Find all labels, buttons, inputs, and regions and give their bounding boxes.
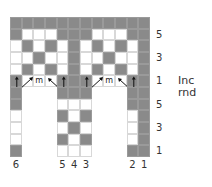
chart-cell	[57, 99, 69, 111]
row-label: 1	[156, 145, 162, 157]
chart-cell	[127, 134, 139, 146]
chart-cell	[10, 99, 22, 111]
chart-cell	[22, 29, 34, 41]
chart-cell	[57, 40, 69, 52]
chart-cell	[45, 29, 57, 41]
chart-cell	[80, 87, 92, 99]
row-label: 1	[156, 75, 162, 87]
chart-cell	[33, 29, 45, 41]
chart-cell	[80, 52, 92, 64]
chart-cell	[127, 52, 139, 64]
chart-cell	[57, 64, 69, 76]
chart-cell	[115, 75, 127, 87]
chart-cell	[138, 110, 150, 122]
chart-cell	[115, 52, 127, 64]
chart-cell	[115, 17, 127, 29]
chart-cell	[68, 99, 80, 111]
chart-cell	[45, 75, 57, 87]
chart-cell	[22, 75, 34, 87]
chart-cell	[138, 145, 150, 157]
chart-cell	[57, 110, 69, 122]
chart-cell	[92, 17, 104, 29]
chart-cell	[115, 64, 127, 76]
chart-cell	[45, 17, 57, 29]
row-label: 5	[156, 29, 162, 41]
chart-cell	[127, 29, 139, 41]
chart-cell	[10, 17, 22, 29]
chart-cell	[57, 122, 69, 134]
chart-cell	[68, 134, 80, 146]
stitch-label: 4	[68, 159, 80, 170]
chart-cell	[138, 52, 150, 64]
chart-cell	[45, 64, 57, 76]
chart-cell	[127, 40, 139, 52]
chart-cell	[80, 40, 92, 52]
chart-cell: m	[103, 75, 115, 87]
chart-cell	[10, 52, 22, 64]
chart-cell	[10, 29, 22, 41]
chart-cell	[127, 64, 139, 76]
row-label: 3	[156, 122, 162, 134]
chart-cell: m	[33, 75, 45, 87]
row-label: 3	[156, 52, 162, 64]
chart-cell	[33, 64, 45, 76]
chart-cell	[127, 87, 139, 99]
chart-cell	[22, 52, 34, 64]
chart-cell	[127, 75, 139, 87]
chart-cell	[68, 145, 80, 157]
chart-cell	[103, 64, 115, 76]
chart-cell	[10, 122, 22, 134]
chart-cell	[10, 145, 22, 157]
chart-cell	[80, 122, 92, 134]
chart-cell	[57, 75, 69, 87]
chart-cell	[138, 122, 150, 134]
chart-cell	[103, 29, 115, 41]
chart-cell	[80, 145, 92, 157]
chart-cell	[33, 40, 45, 52]
chart-cell	[33, 52, 45, 64]
chart-cell	[80, 29, 92, 41]
chart-cell	[80, 110, 92, 122]
chart-cell	[138, 134, 150, 146]
chart-cell	[138, 64, 150, 76]
chart-cell	[127, 122, 139, 134]
chart-cell	[92, 29, 104, 41]
chart-cell	[10, 87, 22, 99]
chart-cell	[92, 40, 104, 52]
chart-cell	[68, 87, 80, 99]
chart-cell	[33, 17, 45, 29]
chart-cell	[45, 40, 57, 52]
stitch-label: 5	[57, 159, 69, 170]
chart-cell	[92, 75, 104, 87]
chart-cell	[22, 64, 34, 76]
chart-cell	[68, 40, 80, 52]
chart-cell	[80, 17, 92, 29]
chart-cell	[10, 110, 22, 122]
chart-cell	[10, 134, 22, 146]
chart-cell	[57, 29, 69, 41]
chart-cell	[138, 29, 150, 41]
chart-cell	[68, 64, 80, 76]
chart-cell	[80, 99, 92, 111]
inc-rnd-label: Inc rnd	[178, 75, 212, 98]
chart-cell	[127, 17, 139, 29]
chart-cell	[127, 99, 139, 111]
chart-cell	[57, 52, 69, 64]
chart-cell	[57, 134, 69, 146]
chart-cell	[10, 75, 22, 87]
chart-cell	[57, 87, 69, 99]
chart-cell	[22, 17, 34, 29]
chart-cell	[57, 17, 69, 29]
chart-cell	[22, 40, 34, 52]
row-label: 5	[156, 99, 162, 111]
chart-cell	[80, 75, 92, 87]
chart-cell	[80, 64, 92, 76]
chart-cell	[127, 110, 139, 122]
chart-cell	[10, 40, 22, 52]
stitch-label: 1	[138, 159, 150, 170]
chart-cell	[80, 134, 92, 146]
chart-cell	[138, 87, 150, 99]
make-one-symbol: m	[34, 76, 44, 86]
chart-cell	[10, 64, 22, 76]
chart-cell	[103, 17, 115, 29]
